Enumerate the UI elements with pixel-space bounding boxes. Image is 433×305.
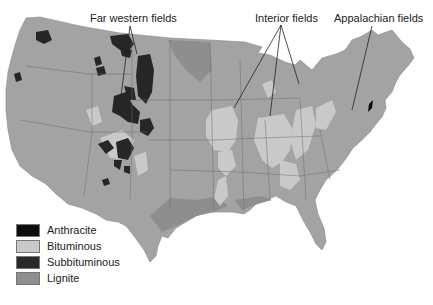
legend-label: Bituminous [47,240,101,252]
legend-label: Anthracite [47,224,97,236]
appalachian-fields-label: Appalachian fields [334,12,423,24]
lignite-swatch [16,272,40,285]
bituminous-swatch [16,240,40,253]
legend-item-bituminous: Bituminous [16,238,120,254]
map-legend: Anthracite Bituminous Subbituminous Lign… [16,222,120,286]
legend-item-anthracite: Anthracite [16,222,120,238]
legend-label: Lignite [47,272,79,284]
legend-label: Subbituminous [47,256,120,268]
subbituminous-swatch [16,256,40,269]
legend-item-lignite: Lignite [16,270,120,286]
far-western-fields-label: Far western fields [90,12,177,24]
anthracite-swatch [16,224,40,237]
legend-item-subbituminous: Subbituminous [16,254,120,270]
interior-fields-label: Interior fields [255,12,318,24]
